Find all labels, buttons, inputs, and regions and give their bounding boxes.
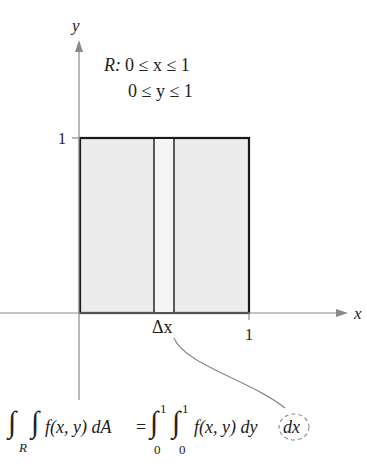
svg-text:1: 1 <box>160 401 167 416</box>
connector-curve <box>174 338 285 408</box>
svg-text:0: 0 <box>154 442 161 457</box>
svg-text:∫: ∫ <box>6 405 18 441</box>
y-axis-label: y <box>70 16 80 35</box>
x-axis-label: x <box>353 304 362 323</box>
svg-text:0: 0 <box>179 442 186 457</box>
svg-text:f(x, y) dy: f(x, y) dy <box>194 417 257 438</box>
svg-text:∫: ∫ <box>29 405 41 441</box>
x-axis-arrow-icon <box>336 309 348 317</box>
svg-text:f(x, y) dA: f(x, y) dA <box>45 417 112 438</box>
x-tick-label: 1 <box>245 326 253 343</box>
highlighted-dx: dx <box>283 417 300 437</box>
svg-text:∫: ∫ <box>148 405 160 441</box>
delta-x-label: Δx <box>152 317 173 337</box>
svg-text:∫: ∫ <box>170 405 182 441</box>
region-line-2: 0 ≤ y ≤ 1 <box>128 81 193 101</box>
region-line-1: R:0 ≤ x ≤ 1 <box>103 55 190 75</box>
double-integral-formula: ∫ R ∫ f(x, y) dA = ∫ 1 0 ∫ 1 0 f(x, y) d… <box>6 401 309 457</box>
svg-text:=: = <box>136 417 146 437</box>
y-axis-arrow-icon <box>75 40 83 52</box>
double-integral-diagram: y x 1 1 R:0 ≤ x ≤ 1 0 ≤ y ≤ 1 Δx ∫ R ∫ f… <box>0 0 367 473</box>
svg-text:R: R <box>18 440 27 455</box>
strip-fill <box>155 139 173 312</box>
svg-text:1: 1 <box>182 401 189 416</box>
y-tick-label: 1 <box>58 130 66 147</box>
